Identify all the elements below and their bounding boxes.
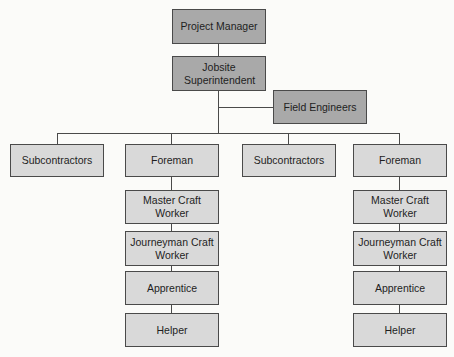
connector-drop-3	[288, 133, 289, 144]
connector-drop-2	[171, 133, 172, 144]
node-label: Master Craft Worker	[365, 194, 435, 220]
node-foreman-1: Foreman	[125, 144, 219, 177]
node-master-craft-worker-1: Master Craft Worker	[125, 190, 219, 224]
node-apprentice-2: Apprentice	[353, 271, 447, 305]
node-subcontractors-2: Subcontractors	[242, 144, 336, 177]
node-label: Foreman	[151, 154, 193, 167]
node-label: Apprentice	[147, 282, 197, 295]
node-label: Subcontractors	[254, 154, 325, 167]
connector-super-trunk	[218, 91, 219, 134]
node-label: Subcontractors	[22, 154, 93, 167]
node-label: Foreman	[379, 154, 421, 167]
node-subcontractors-1: Subcontractors	[10, 144, 104, 177]
node-journeyman-craft-worker-2: Journeyman Craft Worker	[353, 231, 447, 266]
node-label: Journeyman Craft Worker	[355, 236, 445, 262]
node-helper-2: Helper	[353, 313, 447, 347]
node-label: Journeyman Craft Worker	[127, 236, 217, 262]
node-label: Jobsite Superintendent	[184, 61, 254, 87]
node-label: Project Manager	[180, 20, 257, 33]
node-label: Apprentice	[375, 282, 425, 295]
node-label: Master Craft Worker	[137, 194, 207, 220]
connector-field-engineers	[218, 107, 273, 108]
node-label: Helper	[157, 324, 188, 337]
node-helper-1: Helper	[125, 313, 219, 347]
node-foreman-2: Foreman	[353, 144, 447, 177]
node-project-manager: Project Manager	[172, 9, 266, 44]
connector-level2-bus	[57, 133, 400, 134]
connector-drop-4	[399, 133, 400, 144]
connector-drop-1	[57, 133, 58, 144]
node-master-craft-worker-2: Master Craft Worker	[353, 190, 447, 224]
node-apprentice-1: Apprentice	[125, 271, 219, 305]
node-jobsite-superintendent: Jobsite Superintendent	[172, 56, 266, 91]
connector-pm-super	[218, 44, 219, 56]
node-label: Helper	[385, 324, 416, 337]
node-journeyman-craft-worker-1: Journeyman Craft Worker	[125, 231, 219, 266]
node-field-engineers: Field Engineers	[273, 90, 367, 124]
node-label: Field Engineers	[284, 101, 357, 114]
